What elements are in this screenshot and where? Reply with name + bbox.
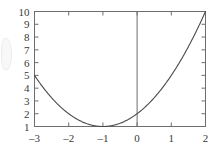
parabola-chart-figure: –3–2–1012 12345678910: [0, 0, 215, 149]
y-tick-label: 5: [24, 69, 30, 81]
x-axis-tick-labels: –3–2–1012: [28, 132, 208, 144]
y-tick-label: 2: [24, 108, 30, 120]
y-tick-label: 3: [24, 95, 30, 107]
y-axis-tick-labels: 12345678910: [19, 6, 31, 133]
x-tick-label: –3: [28, 132, 41, 144]
plot-frame: [35, 12, 206, 127]
y-tick-label: 7: [24, 44, 30, 56]
x-tick-label: –2: [62, 132, 74, 144]
y-tick-label: 8: [24, 31, 30, 43]
y-tick-label: 9: [24, 18, 30, 30]
scan-artifact: [1, 38, 12, 70]
y-axis-ticks: [35, 12, 206, 127]
y-tick-label: 10: [19, 6, 31, 18]
x-tick-label: 2: [203, 132, 209, 144]
parabola-curve: [35, 12, 206, 127]
y-tick-label: 6: [24, 57, 30, 69]
chart-svg: –3–2–1012 12345678910: [0, 0, 215, 149]
x-tick-label: 1: [169, 132, 175, 144]
y-tick-label: 1: [24, 121, 30, 133]
x-axis-ticks: [35, 12, 206, 127]
y-tick-label: 4: [24, 82, 30, 94]
x-tick-label: 0: [134, 132, 140, 144]
x-tick-label: –1: [96, 132, 108, 144]
